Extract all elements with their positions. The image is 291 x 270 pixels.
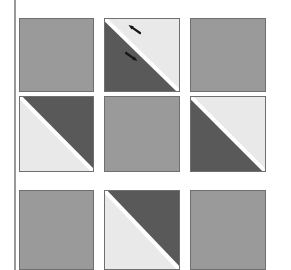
grid-tile-2-3 [190,96,266,172]
grid-tile-3-2 [104,190,180,270]
grid-tile-3-3 [190,190,266,270]
grid-tile-1-3 [190,18,266,92]
grid-tile-2-1 [19,96,94,172]
grid-tile-3-1 [19,190,94,270]
grid-tile-1-1 [19,18,94,92]
grid-tile-1-2 [104,18,180,92]
left-vertical-rule [14,0,16,270]
grid-tile-2-2 [104,96,180,172]
tile-grid-figure [0,0,291,270]
